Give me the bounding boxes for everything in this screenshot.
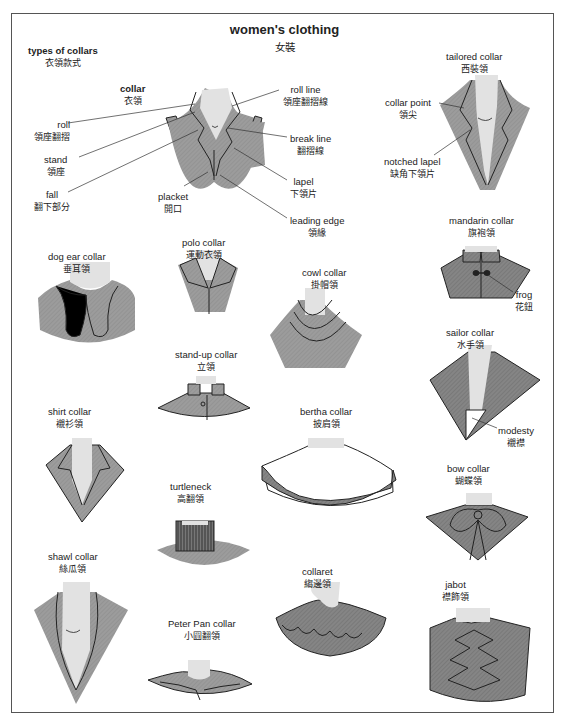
collaret-illustration bbox=[276, 582, 386, 656]
label-shirt-collar: shirt collar 襯衫領 bbox=[48, 405, 91, 431]
label-frog: frog 花鈕 bbox=[515, 288, 533, 314]
label-modesty: modesty 襯襟 bbox=[498, 424, 534, 450]
cowl-collar-illustration bbox=[270, 288, 362, 368]
label-break-line: break line 翻摺線 bbox=[290, 132, 331, 158]
peter-pan-collar-illustration bbox=[148, 660, 252, 700]
label-shawl-collar: shawl collar 絲瓜領 bbox=[48, 550, 98, 576]
label-stand-up-collar: stand-up collar 立領 bbox=[175, 348, 237, 374]
shawl-collar-illustration bbox=[34, 582, 128, 704]
label-polo-collar: polo collar 運動衣領 bbox=[182, 236, 225, 262]
stand-up-collar-illustration bbox=[158, 376, 250, 420]
label-mandarin-collar: mandarin collar 旗袍領 bbox=[449, 214, 514, 240]
label-collaret: collaret 縐邊領 bbox=[302, 565, 333, 591]
label-roll: roll 領座翻摺 bbox=[34, 118, 70, 144]
label-roll-line: roll line 領座翻摺線 bbox=[283, 83, 328, 109]
bow-collar-illustration bbox=[426, 493, 528, 560]
label-sailor-collar: sailor collar 水手領 bbox=[446, 326, 494, 352]
jabot-illustration bbox=[430, 608, 530, 701]
label-bertha-collar: bertha collar 披肩領 bbox=[300, 405, 352, 431]
bertha-collar-illustration bbox=[262, 438, 396, 506]
label-leading-edge: leading edge 領緣 bbox=[290, 214, 344, 240]
label-peter-pan-collar: Peter Pan collar 小圓翻領 bbox=[168, 617, 236, 643]
section-heading: types of collars 衣領款式 bbox=[28, 44, 98, 70]
label-jabot: jabot 襟飾領 bbox=[442, 578, 469, 604]
label-bow-collar: bow collar 蝴蝶領 bbox=[447, 462, 490, 488]
label-turtleneck: turtleneck 高翻領 bbox=[170, 480, 211, 506]
shirt-collar-illustration bbox=[46, 438, 124, 522]
label-tailored-collar: tailored collar 西裝領 bbox=[446, 50, 503, 76]
label-stand: stand 領座 bbox=[44, 153, 67, 179]
label-collar: collar 衣領 bbox=[120, 82, 145, 108]
label-cowl-collar: cowl collar 掛帽領 bbox=[302, 266, 346, 292]
label-placket: placket 開口 bbox=[158, 190, 188, 216]
turtleneck-illustration bbox=[157, 521, 250, 565]
label-collar-point: collar point 領尖 bbox=[385, 96, 431, 122]
label-fall: fall 翻下部分 bbox=[34, 188, 70, 214]
label-dog-ear-collar: dog ear collar 垂耳領 bbox=[48, 250, 106, 276]
tailored-collar-illustration bbox=[440, 75, 530, 190]
title-en: women's clothing bbox=[0, 22, 569, 37]
label-notched-lapel: notched lapel 缺角下領片 bbox=[384, 155, 441, 181]
label-lapel: lapel 下領片 bbox=[290, 175, 317, 201]
